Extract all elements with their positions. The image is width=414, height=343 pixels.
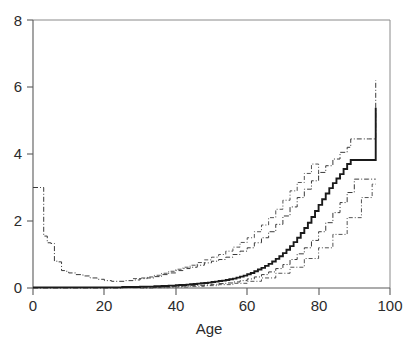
y-tick-label-6: 6: [14, 78, 22, 95]
band-inner-lower: [33, 179, 376, 288]
plot-frame: [33, 20, 390, 288]
chart-canvas: 0 2 4 6 8 0 20 40 60 80 100 Age: [0, 0, 414, 343]
x-tick-label-60: 60: [239, 297, 256, 314]
y-tick-label-4: 4: [14, 145, 22, 162]
y-tick-label-8: 8: [14, 12, 22, 29]
band-outer-upper: [133, 164, 319, 279]
data-series-layer: [33, 80, 376, 288]
x-tick-label-40: 40: [168, 297, 185, 314]
y-tick-label-2: 2: [14, 212, 22, 229]
y-tick-label-0: 0: [14, 279, 22, 296]
x-axis-tick-labels: 0 20 40 60 80 100: [29, 297, 403, 314]
x-axis-title: Age: [196, 320, 223, 337]
x-axis-ticks: [33, 288, 390, 295]
y-axis-ticks: [27, 20, 33, 288]
x-tick-label-20: 20: [96, 297, 113, 314]
chart-figure: 0 2 4 6 8 0 20 40 60 80 100 Age: [0, 0, 414, 343]
x-tick-label-80: 80: [311, 297, 328, 314]
x-tick-label-0: 0: [29, 297, 37, 314]
band-inner-upper: [33, 80, 376, 281]
x-tick-label-100: 100: [377, 297, 402, 314]
estimate-line: [33, 108, 376, 288]
band-outer-lower: [140, 184, 376, 288]
y-axis-tick-labels: 0 2 4 6 8: [14, 12, 22, 296]
